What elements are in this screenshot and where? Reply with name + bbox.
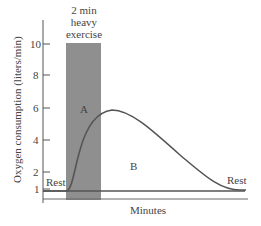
x-axis-label: Minutes	[130, 204, 166, 216]
y-ticks	[43, 44, 50, 189]
y-tick-4: 4	[33, 134, 39, 146]
exercise-label-line3: exercise	[66, 28, 102, 40]
y-axis-label: Oxygen consumption (liters/min)	[11, 36, 24, 183]
oxygen-chart: 10 8 6 4 2 1 Oxygen consumption (liters/…	[0, 0, 261, 226]
y-tick-6: 6	[33, 102, 39, 114]
exercise-label-line1: 2 min	[71, 4, 97, 16]
y-tick-10: 10	[30, 38, 42, 50]
rest-right-label: Rest	[227, 174, 247, 186]
exercise-bar	[66, 43, 101, 200]
region-a-label: A	[80, 103, 88, 115]
exercise-label-line2: heavy	[71, 16, 98, 28]
y-tick-1: 1	[34, 183, 40, 195]
y-tick-8: 8	[33, 69, 39, 81]
region-b-label: B	[130, 160, 137, 172]
y-tick-2: 2	[33, 166, 39, 178]
rest-left-label: Rest	[46, 176, 66, 188]
